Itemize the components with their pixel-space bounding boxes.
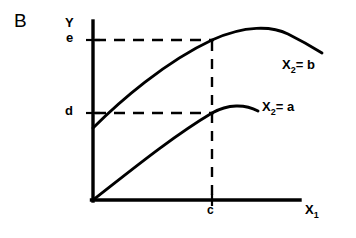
panel-label: B [14, 11, 27, 30]
curve-label-a-base: X [262, 99, 271, 114]
x-axis-label: X1 [305, 203, 319, 220]
y-tick-label-e: e [66, 31, 73, 44]
figure-panel-b: B Y e d c X1 X2= b X2= a [0, 0, 356, 238]
y-axis-label: Y [65, 16, 74, 29]
x-axis-label-base: X [305, 202, 314, 217]
lower-curve-x2-equals-a [93, 106, 258, 200]
curve-label-b-rest: = b [296, 57, 315, 72]
curve-label-a-rest: = a [276, 99, 294, 114]
y-tick-label-d: d [65, 104, 73, 117]
curve-label-b-base: X [282, 57, 291, 72]
plot-canvas [0, 0, 356, 238]
curve-label-x2-equals-b: X2= b [282, 58, 315, 75]
x-axis-label-subscript: 1 [314, 210, 319, 220]
x-tick-label-c: c [207, 204, 214, 216]
curve-label-x2-equals-a: X2= a [262, 100, 294, 117]
